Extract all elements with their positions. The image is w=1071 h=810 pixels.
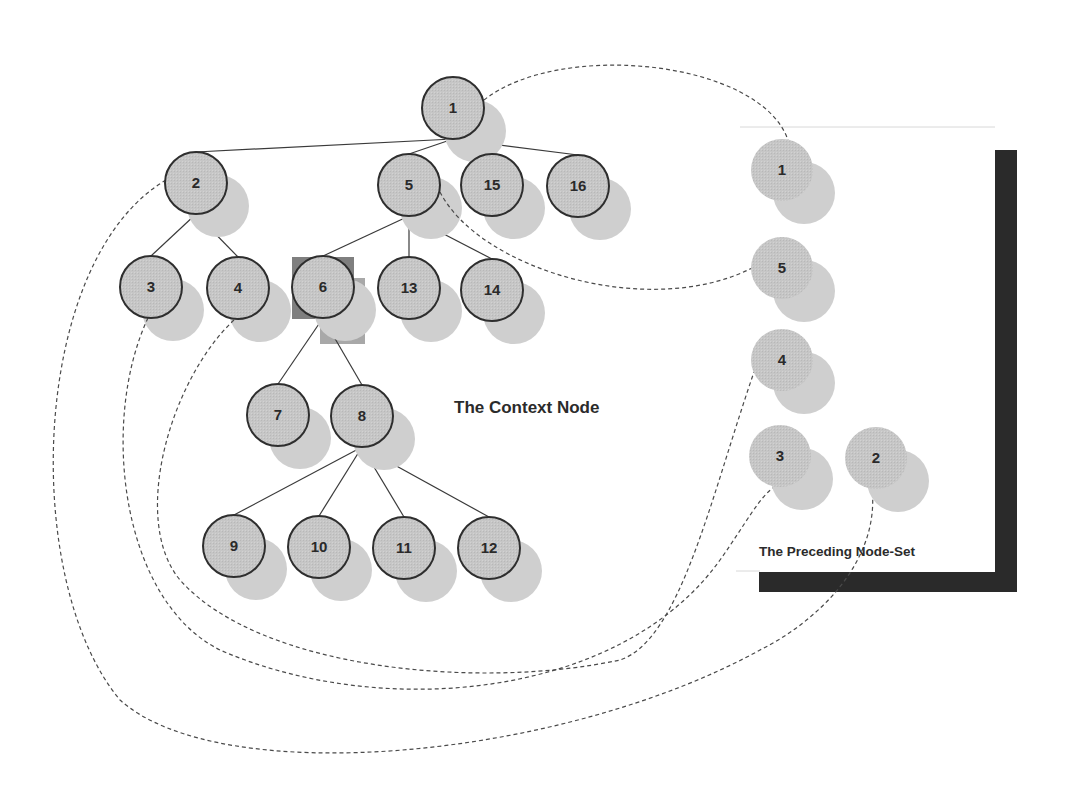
edge-1-2 [196,139,453,152]
tree-node-4: 4 [207,257,269,319]
frame-right-bar [995,150,1017,590]
tree-node-9: 9 [203,515,265,577]
node-label: 1 [778,161,786,178]
node-label: 11 [396,539,412,556]
tree-node-12: 12 [458,517,520,579]
node-label: 8 [358,407,366,424]
tree-node-10: 10 [288,516,350,578]
node-label: 2 [872,449,880,466]
edge-8-10 [319,447,362,516]
preceding-node-1: 1 [751,139,835,224]
dashed-link-1-to-p1 [484,65,788,140]
node-label: 15 [484,176,501,193]
node-label: 9 [230,537,238,554]
node-label: 3 [776,447,784,464]
preceding-node-set: 15432 [749,139,929,512]
tree-node-15: 15 [461,154,523,216]
dashed-link-2-to-p2 [53,180,872,753]
node-label: 16 [570,177,587,194]
preceding-axis-diagram: 12515163461314789101112 15432 The Contex… [0,0,1071,810]
node-label: 14 [484,281,501,298]
dashed-link-3-to-p3 [123,318,776,689]
tree-node-8: 8 [331,385,393,447]
preceding-node-2: 2 [845,427,929,512]
node-label: 12 [481,539,498,556]
tree-node-13: 13 [378,257,440,319]
node-label: 5 [778,259,786,276]
edge-2-3 [151,214,196,256]
frame-bottom-bar [759,572,1017,592]
node-label: 7 [274,406,282,423]
tree-node-3: 3 [120,256,182,318]
preceding-node-5: 5 [751,237,835,322]
node-label: 1 [449,99,457,116]
node-label: 3 [147,278,155,295]
edge-5-6 [323,216,409,256]
tree-node-7: 7 [247,384,309,446]
node-label: 5 [405,176,413,193]
tree-node-11: 11 [373,517,435,579]
node-label: 2 [192,174,200,191]
tree-node-14: 14 [461,259,523,321]
node-label: 4 [778,351,787,368]
preceding-node-3: 3 [749,425,833,510]
node-label: 13 [401,279,418,296]
tree-node-6: 6 [292,256,354,318]
tree-node-5: 5 [378,154,440,216]
dashed-link-4-to-p4 [157,320,754,673]
node-label: 4 [234,279,243,296]
tree-node-1: 1 [422,77,484,139]
node-label: 6 [319,278,327,295]
tree-node-2: 2 [165,152,227,214]
preceding-node-4: 4 [751,329,835,414]
preceding-node-set-caption: The Preceding Node-Set [759,544,916,559]
node-label: 10 [311,538,328,555]
tree-node-16: 16 [547,155,609,217]
context-node-caption: The Context Node [454,398,599,417]
